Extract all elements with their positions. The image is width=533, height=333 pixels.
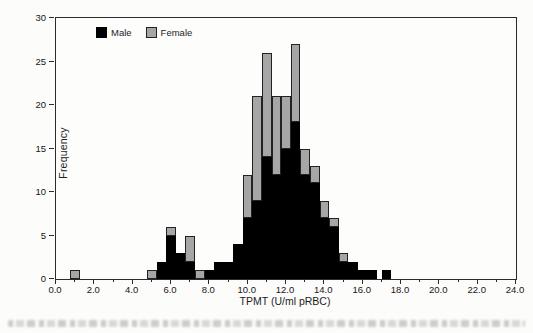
figure-page: Male Female Frequency TPMT (U/ml pRBC) 0… <box>0 0 533 333</box>
histogram-bar-male-segment <box>348 262 358 279</box>
y-axis-major-tick <box>49 61 54 62</box>
histogram-bar-male-segment <box>367 270 377 279</box>
y-axis-tick-label: 15 <box>22 142 46 153</box>
x-axis-minor-tick <box>343 279 344 282</box>
histogram-bar-female-segment <box>243 175 253 219</box>
x-axis-tick-label: 20.0 <box>429 284 448 295</box>
y-axis-major-tick <box>49 191 54 192</box>
x-axis-minor-tick <box>228 279 229 282</box>
histogram-bar-female-segment <box>195 270 205 279</box>
histogram-bar-female-segment <box>291 44 301 122</box>
histogram-bar-male-segment <box>300 175 310 279</box>
x-axis-tick-label: 2.0 <box>87 284 100 295</box>
x-axis-tick-label: 22.0 <box>467 284 486 295</box>
x-axis-minor-tick <box>381 279 382 282</box>
histogram-bar-female-segment <box>339 253 349 262</box>
histogram-bar-female-segment <box>320 201 330 218</box>
x-axis-tick-label: 6.0 <box>163 284 176 295</box>
histogram-bar-female-segment <box>252 96 262 200</box>
histogram-bar-male-segment <box>252 201 262 279</box>
x-axis-minor-tick <box>304 279 305 282</box>
histogram-bar-male-segment <box>233 244 243 279</box>
x-axis-minor-tick <box>419 279 420 282</box>
legend-item-male: Male <box>96 27 132 38</box>
histogram-bar-male-segment <box>310 183 320 279</box>
x-axis-minor-tick <box>458 279 459 282</box>
histogram-bar-male-segment <box>291 122 301 279</box>
x-axis-title: TPMT (U/ml pRBC) <box>55 295 515 307</box>
histogram-bar-male-segment <box>205 270 215 279</box>
histogram-bar-male-segment <box>281 149 291 280</box>
y-axis-major-tick <box>49 17 54 18</box>
legend: Male Female <box>96 27 192 38</box>
histogram-bar-female-segment <box>310 166 320 183</box>
histogram-bar-female-segment <box>166 227 176 236</box>
x-axis-tick-label: 24.0 <box>506 284 525 295</box>
x-axis-minor-tick <box>496 279 497 282</box>
female-swatch-icon <box>146 27 157 38</box>
y-axis-major-tick <box>49 148 54 149</box>
histogram-bar-male-segment <box>166 236 176 280</box>
histogram-bar-female-segment <box>185 236 195 262</box>
histogram-bar-female-segment <box>147 270 157 279</box>
histogram-bar-female-segment <box>272 96 282 174</box>
histogram-bar-male-segment <box>214 262 224 279</box>
x-axis-minor-tick <box>189 279 190 282</box>
x-axis-tick-label: 8.0 <box>202 284 215 295</box>
histogram-bar-female-segment <box>281 96 291 148</box>
histogram-bar-male-segment <box>157 262 167 279</box>
x-axis-tick-label: 10.0 <box>237 284 256 295</box>
y-axis-major-tick <box>49 235 54 236</box>
histogram-bar-male-segment <box>176 253 186 279</box>
y-axis-major-tick <box>49 104 54 105</box>
histogram-bar-male-segment <box>329 227 339 279</box>
x-axis-minor-tick <box>74 279 75 282</box>
x-axis-tick-label: 12.0 <box>276 284 295 295</box>
histogram-bar-male-segment <box>243 218 253 279</box>
y-axis-tick-label: 30 <box>22 12 46 23</box>
histogram-bar-female-segment <box>329 218 339 227</box>
x-axis-minor-tick <box>151 279 152 282</box>
legend-item-female: Female <box>146 27 193 38</box>
y-axis-title: Frequency <box>57 98 69 208</box>
histogram-bar-male-segment <box>224 262 234 279</box>
x-axis-tick-label: 16.0 <box>352 284 371 295</box>
x-axis-tick-label: 18.0 <box>391 284 410 295</box>
blurred-caption-line <box>8 320 525 327</box>
histogram-bar-female-segment <box>300 149 310 175</box>
histogram-bar-male-segment <box>185 262 195 279</box>
histogram-bar-male-segment <box>358 270 368 279</box>
histogram-bar-male-segment <box>262 157 272 279</box>
x-axis-minor-tick <box>113 279 114 282</box>
y-axis-tick-label: 25 <box>22 55 46 66</box>
y-axis-tick-label: 5 <box>22 229 46 240</box>
y-axis-tick-label: 20 <box>22 99 46 110</box>
y-axis-tick-label: 10 <box>22 186 46 197</box>
x-axis-tick-label: 4.0 <box>125 284 138 295</box>
histogram-bar-female-segment <box>262 53 272 157</box>
histogram-bar-female-segment <box>70 270 80 279</box>
male-swatch-icon <box>96 27 107 38</box>
legend-label-female: Female <box>161 27 193 38</box>
x-axis-tick-label: 0.0 <box>48 284 61 295</box>
histogram-bar-male-segment <box>272 175 282 279</box>
histogram-bar-male-segment <box>382 270 392 279</box>
histogram-bar-male-segment <box>320 218 330 279</box>
x-axis-minor-tick <box>266 279 267 282</box>
histogram-bar-male-segment <box>339 262 349 279</box>
legend-label-male: Male <box>111 27 132 38</box>
y-axis-major-tick <box>49 278 54 279</box>
y-axis-tick-label: 0 <box>22 273 46 284</box>
x-axis-tick-label: 14.0 <box>314 284 333 295</box>
plot-area: Male Female <box>55 17 517 280</box>
